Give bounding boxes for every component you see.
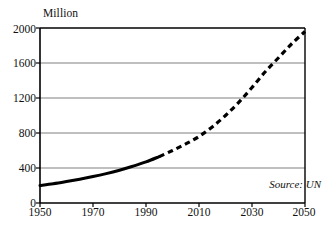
source-annotation: Source: UN bbox=[269, 178, 321, 190]
plot-canvas bbox=[0, 0, 330, 232]
population-projection-chart: Million 0 400 800 1200 1600 2000 1950 19… bbox=[0, 0, 330, 232]
series-historical-line bbox=[40, 157, 159, 186]
series-projection-line bbox=[159, 32, 305, 157]
